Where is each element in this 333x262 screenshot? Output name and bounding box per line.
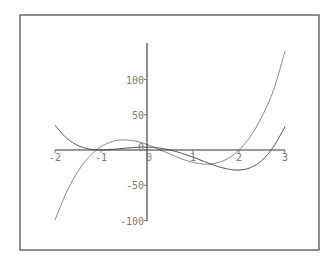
- y-tick-label: 50: [132, 110, 144, 121]
- chart: -2-10123 -100-50050100: [0, 0, 333, 262]
- y-tick-label: -100: [120, 216, 144, 227]
- x-tick-label: 3: [282, 152, 288, 163]
- x-tick-label: 1: [190, 152, 196, 163]
- x-tick-label: -2: [49, 152, 61, 163]
- y-tick-label: 100: [126, 75, 144, 86]
- x-tick-label: 2: [236, 152, 242, 163]
- x-tick-label: 0: [146, 152, 152, 163]
- y-tick-label: -50: [126, 180, 144, 191]
- x-tick-label: -1: [95, 152, 107, 163]
- plot-frame: [20, 15, 319, 250]
- y-tick-label: 0: [138, 142, 144, 153]
